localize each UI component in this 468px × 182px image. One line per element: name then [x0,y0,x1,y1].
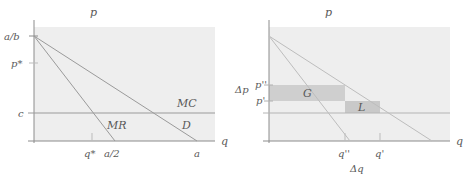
delta-q-label: Δq [349,163,364,174]
left-ylabel-a-over-b: a/b [4,31,20,42]
gain-region-label: G [303,87,312,100]
figure-root: p q a/b p* c q* a/2 a MC MR D [0,0,468,182]
left-ylabel-c: c [18,108,24,119]
loss-region-label: L [357,101,365,114]
right-xlabel-q-prime: q' [375,148,384,159]
right-ylabel-p-double-prime: p'' [255,79,267,90]
left-y-axis-label: p [90,6,97,19]
left-curve-label-mc: MC [176,97,197,110]
right-y-axis-label: p [325,6,332,19]
left-curve-label-mr: MR [106,119,127,132]
left-ylabel-p-star: p* [11,58,22,69]
left-xlabel-q-star: q* [84,148,95,159]
left-xlabel-a-half: a/2 [104,148,120,159]
left-x-axis-label: q [221,135,228,148]
left-curve-label-d: D [181,119,191,132]
right-plot-background [269,27,450,141]
delta-p-label: Δp [234,84,249,95]
right-x-axis-label: q [456,135,463,148]
left-panel-canvas: p q a/b p* c q* a/2 a MC MR D [0,0,234,182]
left-panel: p q a/b p* c q* a/2 a MC MR D [0,0,234,182]
right-panel-canvas: p q Δp p'' p' q'' q' Δq G L [234,0,468,182]
left-xlabel-a: a [194,148,200,159]
right-panel: p q Δp p'' p' q'' q' Δq G L [234,0,468,182]
right-ylabel-p-prime: p' [256,95,265,106]
right-xlabel-q-double-prime: q'' [338,148,350,159]
